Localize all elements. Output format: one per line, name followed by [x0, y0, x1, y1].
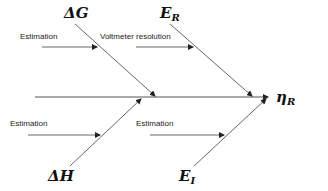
cause-branch-delta-h — [70, 99, 141, 166]
cause-branch-e-i — [194, 99, 266, 166]
cause-label-e-r: ER — [159, 4, 180, 23]
sub-cause-label-delta-g: Estimation — [20, 32, 57, 41]
sub-cause-label-e-r: Voltmeter resolution — [100, 32, 171, 41]
sub-cause-label-e-i: Estimation — [136, 119, 173, 128]
sub-cause-label-delta-h: Estimation — [10, 119, 47, 128]
fishbone-diagram: ηR ΔG Estimation ER Voltmeter resolution… — [0, 0, 328, 191]
cause-branch-e-r — [170, 24, 252, 96]
cause-label-delta-g: ΔG — [63, 4, 89, 22]
cause-label-e-i: EI — [178, 167, 195, 186]
effect-label: ηR — [276, 88, 295, 107]
cause-label-delta-h: ΔH — [47, 167, 75, 185]
